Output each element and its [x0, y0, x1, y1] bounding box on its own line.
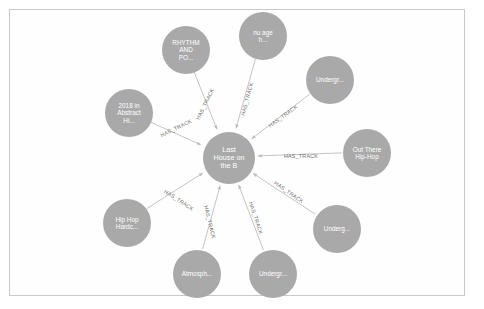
node-nu-age-h[interactable]: nu age h... [239, 12, 287, 60]
graph-visualization-frame: RHYTHM AND PO...nu age h...Undergr...Out… [9, 9, 465, 296]
edge-to-out-there-hiphop-label: HAS_TRACK [284, 153, 318, 159]
edge-to-undergr-bottom[interactable] [239, 185, 264, 250]
node-label: Last House on the B [212, 146, 247, 170]
node-rhythm-and-po[interactable]: RHYTHM AND PO... [162, 26, 210, 74]
node-atmosph[interactable]: Atmosph... [173, 250, 221, 298]
node-2018-in-abstract[interactable]: 2018 in Abstract Hi... [105, 89, 153, 137]
node-label: Atmosph... [180, 270, 215, 277]
node-label: Underg... [322, 225, 352, 232]
edge-to-hip-hop-hardc[interactable] [147, 173, 203, 209]
node-label: nu age h... [251, 29, 275, 43]
node-undergr-bottom[interactable]: Undergr... [249, 250, 297, 298]
node-out-there-hiphop[interactable]: Out There Hip-Hop [343, 129, 391, 177]
node-label: Out There Hip-Hop [351, 146, 384, 160]
node-label: 2018 in Abstract Hi... [115, 102, 142, 124]
edge-to-undergr-right[interactable] [253, 173, 316, 214]
node-undergr-right[interactable]: Underg... [313, 205, 361, 253]
node-center-last-house-on-the-b[interactable]: Last House on the B [203, 132, 255, 184]
node-undergr-topright[interactable]: Undergr... [306, 56, 354, 104]
node-hip-hop-hardc[interactable]: Hip Hop Hardc... [103, 199, 151, 247]
node-label: Undergr... [314, 76, 346, 83]
node-label: Hip Hop Hardc... [113, 216, 140, 230]
node-label: RHYTHM AND PO... [170, 39, 201, 61]
node-label: Undergr... [257, 270, 289, 277]
